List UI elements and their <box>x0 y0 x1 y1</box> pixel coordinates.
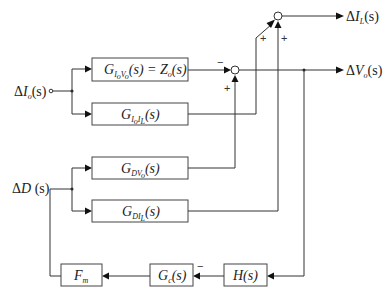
arrow-head-icon <box>193 273 200 280</box>
sign-plus-il-left: + <box>260 32 266 44</box>
sign-minus-gc: − <box>197 260 203 272</box>
block-g-d-vo: GDVo(s) <box>92 157 188 180</box>
arrow-head-icon <box>85 66 92 73</box>
arrow-head-icon <box>336 13 344 20</box>
block-fm: Fm <box>61 264 102 286</box>
input-label-delta-d: ΔD (s) <box>12 181 50 197</box>
output-label-delta-il: ΔIL(s) <box>346 9 379 26</box>
arrow-head-icon <box>224 67 231 74</box>
arrow-head-icon <box>267 20 276 29</box>
sign-plus-il-bottom: + <box>281 32 287 44</box>
sign-minus-vo: − <box>217 56 223 68</box>
svg-text:H(s): H(s) <box>232 268 258 284</box>
summing-junction-vo <box>231 66 239 74</box>
output-label-delta-vo: ΔVo(s) <box>346 63 383 80</box>
wire-gdil-to-sum <box>188 24 278 211</box>
block-h: H(s) <box>224 264 267 286</box>
arrow-head-icon <box>85 208 92 215</box>
block-g-io-il: GIoIL(s) <box>92 103 188 126</box>
block-diagram: ΔIo(s) GIoVo(s) = Zo(s) GIoIL(s) ΔD (s) … <box>0 0 385 299</box>
arrow-head-icon <box>232 75 239 82</box>
wire-feedback-vo <box>270 70 304 276</box>
wire-d-branch <box>72 168 90 211</box>
sign-plus-vo: + <box>224 82 230 94</box>
svg-text:Gc(s): Gc(s) <box>158 268 187 285</box>
block-gc: Gc(s) <box>150 264 193 286</box>
arrow-head-icon <box>85 111 92 118</box>
summing-junction-il <box>274 12 282 20</box>
arrow-head-icon <box>275 21 282 28</box>
arrow-head-icon <box>267 273 274 280</box>
input-terminal-io <box>49 89 53 93</box>
arrow-head-icon <box>336 67 344 74</box>
block-g-d-il: GDIL(s) <box>92 200 188 223</box>
wire-io-branch <box>72 69 90 114</box>
arrow-head-icon <box>85 165 92 172</box>
block-g-io-vo: GIoVo(s) = Zo(s) <box>92 58 188 81</box>
wire-fm-to-d <box>50 189 61 276</box>
arrow-head-icon <box>102 273 109 280</box>
input-label-delta-io: ΔIo(s) <box>14 84 47 101</box>
